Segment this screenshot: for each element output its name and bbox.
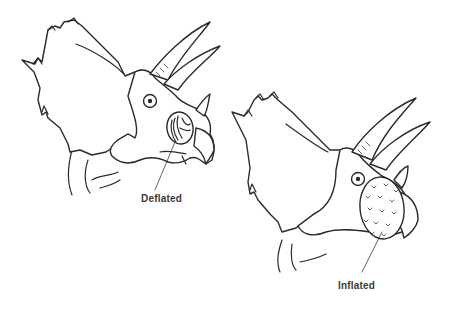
eye-pupil — [148, 99, 152, 103]
triceratops-inflated-figure — [232, 92, 430, 272]
label-inflated: Inflated — [338, 280, 375, 291]
eye-pupil — [356, 177, 360, 181]
neck-outline — [278, 240, 326, 272]
label-deflated: Deflated — [141, 193, 182, 204]
triceratops-diagram — [0, 0, 450, 312]
triceratops-deflated-figure — [22, 18, 220, 195]
inflated-pointer-line — [362, 232, 382, 272]
